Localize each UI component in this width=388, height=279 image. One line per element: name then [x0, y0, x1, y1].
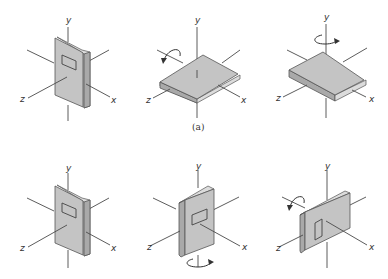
book-rotation-diagram: y z x y z x (a): [0, 0, 388, 279]
z-axis-label: z: [19, 243, 25, 253]
z-axis-front: [153, 89, 170, 98]
x-axis-back: [222, 50, 240, 63]
y-axis-label: y: [324, 161, 331, 171]
x-axis-label: x: [368, 242, 375, 252]
z-axis-back: [27, 198, 54, 211]
x-axis-label: x: [110, 243, 117, 253]
panel-bottom-3: y z x: [275, 161, 375, 268]
x-axis-label: x: [368, 94, 375, 104]
y-axis-label: y: [323, 12, 330, 22]
rotation-arrow-y-icon: [187, 259, 211, 267]
x-axis-label: x: [240, 95, 247, 105]
x-axis-label: x: [110, 95, 117, 105]
z-axis-label: z: [145, 95, 151, 105]
z-axis-back: [287, 50, 307, 60]
panel-bottom-1: y z x: [19, 163, 117, 268]
row-caption: (a): [192, 122, 204, 132]
panel-bottom-2: y z x: [146, 161, 248, 267]
z-axis-back: [153, 198, 176, 209]
x-axis-back: [89, 50, 109, 61]
x-axis-back: [213, 197, 239, 210]
x-axis-front: [352, 90, 366, 97]
x-axis-label: x: [241, 242, 248, 252]
panel-top-3: y z x: [275, 12, 375, 118]
y-axis-label: y: [65, 163, 72, 173]
x-axis-front: [218, 85, 240, 97]
x-axis-back: [343, 48, 367, 62]
z-axis-label: z: [146, 242, 152, 252]
z-axis-label: z: [19, 94, 25, 104]
z-axis-label: z: [275, 93, 281, 103]
z-axis-back: [27, 50, 54, 63]
z-axis-front: [283, 85, 307, 97]
y-axis-label: y: [195, 161, 202, 171]
z-axis-back: [282, 197, 305, 208]
z-axis-front: [150, 231, 180, 246]
z-axis-label: z: [275, 243, 281, 253]
x-axis-back: [89, 198, 109, 209]
y-axis-label: y: [65, 15, 72, 25]
x-axis-back: [350, 197, 366, 205]
z-axis-front: [279, 235, 303, 247]
y-axis-label: y: [194, 15, 201, 25]
panel-top-1: y z x: [19, 15, 117, 121]
panel-top-2: y z x (a): [145, 15, 247, 132]
